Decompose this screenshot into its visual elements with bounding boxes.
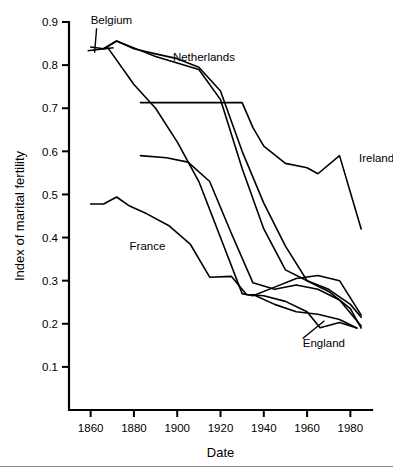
series-label-ireland: Ireland [359, 152, 393, 164]
series-line-belgium-second [108, 48, 361, 315]
series-line-ireland [140, 103, 361, 229]
x-tick-label-2: 1900 [164, 422, 190, 434]
series-label-france: France [130, 240, 166, 252]
series-label-england: England [303, 337, 345, 349]
footer-divider [0, 466, 393, 467]
y-tick-label-1: 0.2 [42, 318, 58, 330]
series-line-scotland [140, 156, 361, 326]
x-tick-label-4: 1940 [251, 422, 277, 434]
x-axis-title: Date [207, 445, 234, 460]
y-tick-label-5: 0.6 [42, 146, 58, 158]
y-tick-label-2: 0.3 [42, 275, 58, 287]
chart-svg: 0.10.20.30.40.50.60.70.80.91860188019001… [0, 0, 393, 475]
chart-axes [69, 22, 372, 410]
y-tick-label-0: 0.1 [42, 361, 58, 373]
england-leader-line [303, 321, 325, 339]
y-tick-label-6: 0.7 [42, 102, 58, 114]
series-label-belgium: Belgium [91, 14, 133, 26]
y-axis-title: Index of marital fertility [12, 150, 27, 281]
series-label-netherlands: Netherlands [173, 51, 235, 63]
series-line-netherlands [104, 41, 362, 328]
x-tick-label-3: 1920 [208, 422, 234, 434]
y-tick-label-8: 0.9 [42, 16, 58, 28]
x-tick-label-6: 1980 [338, 422, 364, 434]
y-tick-label-7: 0.8 [42, 59, 58, 71]
y-tick-label-3: 0.4 [42, 232, 59, 244]
x-tick-label-0: 1860 [78, 422, 104, 434]
x-tick-label-5: 1960 [294, 422, 320, 434]
x-tick-label-1: 1880 [121, 422, 147, 434]
y-tick-label-4: 0.5 [42, 189, 58, 201]
chart-figure: 0.10.20.30.40.50.60.70.80.91860188019001… [0, 0, 393, 475]
